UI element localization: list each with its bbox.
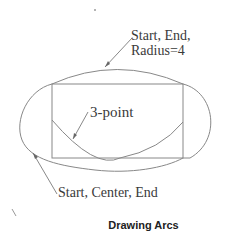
label-start-center-end: Start, Center, End [58,185,158,200]
label-line: Radius=4 [131,43,191,58]
stray-mark [12,209,16,216]
arc-right [183,84,211,158]
label-three-point: 3-point [90,105,133,120]
arc-three-point [52,120,183,160]
stray-dot [94,9,96,11]
arcs-drawing [0,0,227,240]
leader-start-center-end [33,153,57,194]
rectangle [52,84,183,158]
arc-start-end-radius [52,70,183,85]
label-line: Start, End, [131,28,191,43]
figure-caption: Drawing Arcs [0,219,227,231]
label-start-end-radius: Start, End, Radius=4 [131,28,191,58]
